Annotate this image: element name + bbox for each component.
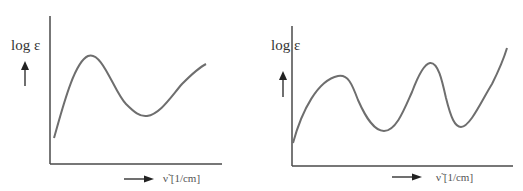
right-y-axis-label: log ε	[271, 37, 300, 54]
right-spectrum-curve	[293, 48, 507, 143]
left-spectrum-curve	[54, 55, 206, 138]
right-chart: log ε ν̃ [1/cm]	[260, 0, 523, 191]
right-arrow-icon	[392, 174, 422, 181]
up-arrow-icon	[279, 71, 287, 97]
left-x-axis-label: ν̃ [1/cm]	[163, 172, 200, 184]
left-chart-plot	[0, 0, 260, 191]
right-arrow-icon	[124, 176, 154, 183]
left-chart: log ε ν̃ [1/cm]	[0, 0, 260, 191]
right-chart-plot	[260, 0, 523, 191]
up-arrow-icon	[21, 61, 29, 86]
right-x-axis-label: ν̃ [1/cm]	[436, 171, 473, 183]
left-y-axis-label: log ε	[11, 37, 40, 54]
